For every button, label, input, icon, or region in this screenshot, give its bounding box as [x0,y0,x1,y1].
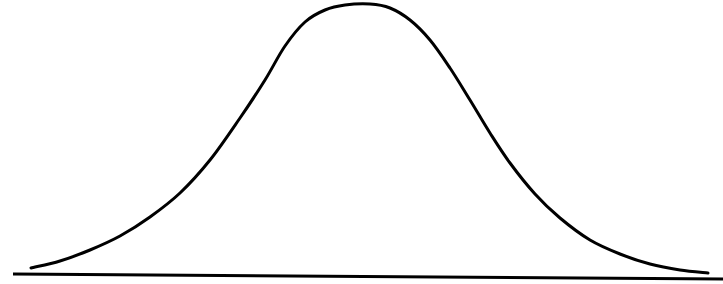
x-axis-baseline [13,274,723,279]
bell-curve [31,4,708,273]
normal-distribution-diagram [0,0,723,284]
